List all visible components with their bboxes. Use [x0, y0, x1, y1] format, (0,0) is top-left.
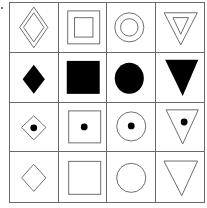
- cell-r2-diamond: [10, 53, 59, 103]
- outline-circle-icon: [107, 152, 155, 202]
- double-circle-icon: [107, 3, 155, 52]
- filled-circle-icon: [107, 53, 155, 102]
- outline-diamond-icon: [10, 152, 58, 202]
- cell-r2-circle: [107, 53, 156, 103]
- cell-r4-diamond: [10, 152, 59, 202]
- cell-r4-square: [59, 152, 108, 202]
- cell-r3-diamond: [10, 103, 59, 153]
- filled-diamond-icon: [10, 53, 58, 102]
- outline-square-icon: [59, 152, 107, 202]
- dotted-diamond-icon: [10, 103, 58, 152]
- double-square-icon: [59, 3, 107, 52]
- double-diamond-icon: [10, 3, 58, 52]
- cell-r4-circle: [107, 152, 156, 202]
- cell-r1-square: [59, 3, 108, 53]
- dotted-circle-icon: [107, 103, 155, 152]
- shape-grid: [9, 2, 205, 203]
- filled-square-icon: [59, 53, 107, 102]
- cell-r3-square: [59, 103, 108, 153]
- cell-r2-square: [59, 53, 108, 103]
- filled-triangle-down-icon: [156, 53, 205, 102]
- dotted-square-icon: [59, 103, 107, 152]
- double-triangle-down-icon: [156, 3, 205, 52]
- outline-triangle-down-icon: [156, 152, 205, 202]
- corner-mark: [1, 7, 3, 9]
- dotted-triangle-down-icon: [156, 103, 205, 152]
- cell-r3-triangle: [156, 103, 205, 153]
- cell-r3-circle: [107, 103, 156, 153]
- cell-r1-circle: [107, 3, 156, 53]
- cell-r1-diamond: [10, 3, 59, 53]
- cell-r2-triangle: [156, 53, 205, 103]
- cell-r4-triangle: [156, 152, 205, 202]
- cell-r1-triangle: [156, 3, 205, 53]
